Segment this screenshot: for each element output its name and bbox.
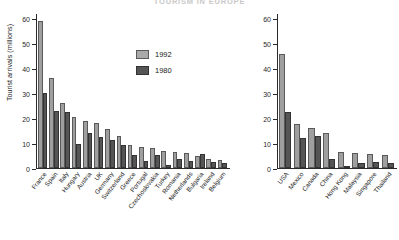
figure-title: TOURISM IN EUROPE xyxy=(0,0,399,6)
y-tick-40 xyxy=(32,69,36,70)
bar-group xyxy=(37,14,48,168)
bar-1980 xyxy=(177,159,182,168)
y-tick-40 xyxy=(273,69,277,70)
bar-group xyxy=(127,14,138,168)
bar-1980 xyxy=(344,166,350,169)
legend: 1992 1980 xyxy=(136,50,172,82)
y-tick-label-60: 60 xyxy=(22,16,30,23)
plot-area-left: 0102030405060 FranceSpainItalyHungaryAus… xyxy=(36,14,228,169)
y-tick-20 xyxy=(32,119,36,120)
legend-label-1992: 1992 xyxy=(155,50,172,59)
y-tick-60 xyxy=(32,19,36,20)
bar-1980 xyxy=(76,144,81,168)
bar-group xyxy=(293,14,308,168)
legend-item-1980: 1980 xyxy=(136,66,172,75)
y-axis-label: Tourist arrivals (millions) xyxy=(5,0,14,128)
bar-group xyxy=(93,14,104,168)
bar-1980 xyxy=(88,133,93,168)
y-tick-50 xyxy=(32,44,36,45)
y-tick-label-30: 30 xyxy=(263,91,271,98)
bar-group xyxy=(380,14,395,168)
bar-1980 xyxy=(166,165,171,168)
x-tick-label: Thailand xyxy=(380,169,395,239)
y-tick-0 xyxy=(32,169,36,170)
bar-group xyxy=(206,14,217,168)
chart-panel-left: 0102030405060 FranceSpainItalyHungaryAus… xyxy=(36,14,228,169)
bar-group xyxy=(71,14,82,168)
bar-group xyxy=(337,14,352,168)
bar-1980 xyxy=(65,112,70,168)
y-tick-30 xyxy=(32,94,36,95)
bar-group xyxy=(161,14,172,168)
figure-root: TOURISM IN EUROPE Tourist arrivals (mill… xyxy=(0,0,399,240)
bar-group xyxy=(149,14,160,168)
bar-1980 xyxy=(144,161,149,168)
y-tick-50 xyxy=(273,44,277,45)
y-tick-10 xyxy=(32,144,36,145)
y-tick-label-40: 40 xyxy=(263,66,271,73)
bar-1980 xyxy=(358,163,364,168)
legend-swatch-1992 xyxy=(136,50,149,59)
bar-1980 xyxy=(189,161,194,168)
bar-1980 xyxy=(388,163,394,168)
bar-group xyxy=(116,14,127,168)
y-tick-label-10: 10 xyxy=(22,141,30,148)
bar-group-container-left xyxy=(37,14,228,168)
bar-1980 xyxy=(110,140,115,168)
bar-1980 xyxy=(315,136,321,169)
bar-1980 xyxy=(373,162,379,169)
bar-1980 xyxy=(43,93,48,168)
y-tick-label-40: 40 xyxy=(22,66,30,73)
bar-1980 xyxy=(200,154,205,168)
x-tick-label: Singapore xyxy=(366,169,381,239)
y-tick-label-50: 50 xyxy=(22,41,30,48)
bar-group xyxy=(82,14,93,168)
bar-1980 xyxy=(285,112,291,168)
x-tick-label: China xyxy=(322,169,337,239)
bar-group xyxy=(172,14,183,168)
chart-panel-right: 0102030405060 USAMexicoCanadaChinaHong K… xyxy=(277,14,395,169)
x-tick-labels-right: USAMexicoCanadaChinaHong KongMalaysiaSin… xyxy=(278,169,395,239)
bar-group xyxy=(217,14,228,168)
x-tick-label: Belgium xyxy=(217,169,228,239)
x-tick-label: Mexico xyxy=(293,169,308,239)
bar-1980 xyxy=(300,138,306,168)
y-tick-label-20: 20 xyxy=(263,116,271,123)
bar-group xyxy=(138,14,149,168)
y-tick-0 xyxy=(273,169,277,170)
y-tick-label-10: 10 xyxy=(263,141,271,148)
bar-group xyxy=(194,14,205,168)
bar-group xyxy=(351,14,366,168)
legend-item-1992: 1992 xyxy=(136,50,172,59)
bar-group xyxy=(278,14,293,168)
x-tick-label: Austria xyxy=(82,169,93,239)
bar-group-container-right xyxy=(278,14,395,168)
bar-1980 xyxy=(155,155,160,168)
bar-1980 xyxy=(54,111,59,169)
y-tick-20 xyxy=(273,119,277,120)
bar-group xyxy=(48,14,59,168)
bar-1980 xyxy=(132,155,137,168)
bar-1980 xyxy=(329,159,335,168)
bar-group xyxy=(59,14,70,168)
y-tick-label-30: 30 xyxy=(22,91,30,98)
bar-group xyxy=(322,14,337,168)
bar-1980 xyxy=(211,162,216,168)
bar-group xyxy=(366,14,381,168)
x-tick-labels-left: FranceSpainItalyHungaryAustriaUKGermanyS… xyxy=(37,169,228,239)
legend-label-1980: 1980 xyxy=(155,66,172,75)
bar-group xyxy=(307,14,322,168)
bar-group xyxy=(183,14,194,168)
y-tick-label-0: 0 xyxy=(26,166,30,173)
y-tick-60 xyxy=(273,19,277,20)
legend-swatch-1980 xyxy=(136,66,149,75)
y-tick-label-60: 60 xyxy=(263,16,271,23)
plot-area-right: 0102030405060 USAMexicoCanadaChinaHong K… xyxy=(277,14,395,169)
y-tick-30 xyxy=(273,94,277,95)
bar-group xyxy=(104,14,115,168)
y-tick-label-50: 50 xyxy=(263,41,271,48)
y-tick-10 xyxy=(273,144,277,145)
bar-1980 xyxy=(99,137,104,168)
bar-1980 xyxy=(121,145,126,168)
bar-1980 xyxy=(222,163,227,169)
